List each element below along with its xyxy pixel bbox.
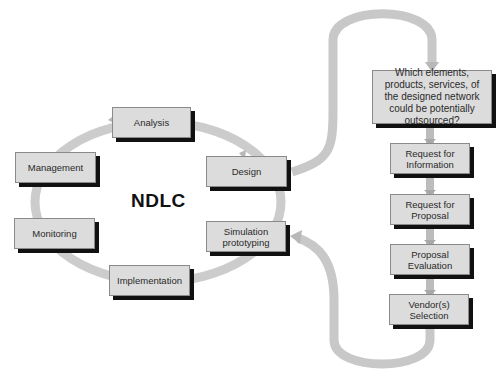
node-management: Management [15, 152, 96, 183]
flow-arrows [0, 0, 504, 383]
node-analysis: Analysis [112, 107, 191, 138]
node-monitoring: Monitoring [14, 218, 95, 249]
return-arrowhead-icon [290, 230, 302, 244]
step-request-for-information: Request for Information [390, 143, 470, 174]
outsourcing-question: Which elements, products, services, of t… [372, 70, 492, 124]
node-design: Design [206, 156, 287, 187]
node-implementation: Implementation [109, 265, 190, 296]
step-proposal-evaluation: Proposal Evaluation [390, 244, 470, 275]
step-vendor-selection: Vendor(s) Selection [389, 294, 469, 325]
step-request-for-proposal: Request for Proposal [390, 194, 470, 225]
diagram-title: NDLC [131, 190, 186, 212]
node-simulation: Simulation prototyping [206, 221, 286, 252]
